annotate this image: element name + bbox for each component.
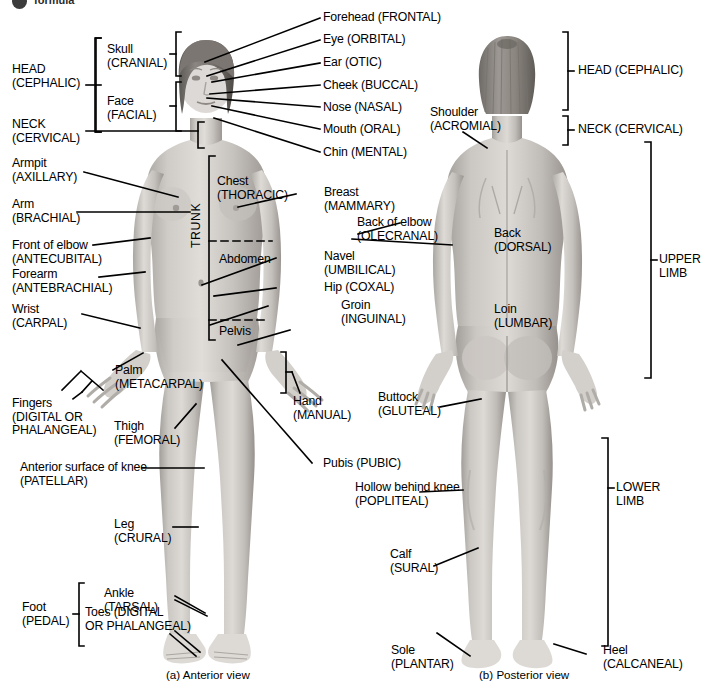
- label-pelvis: Pelvis: [219, 325, 251, 339]
- label-trunk: TRUNK: [190, 203, 204, 248]
- caption-anterior: (a) Anterior view: [166, 668, 250, 681]
- label-forehead: Forehead (FRONTAL): [323, 11, 441, 25]
- label-groin-inguinal: Groin (INGUINAL): [341, 299, 406, 326]
- label-front-of-elbow: Front of elbow (ANTECUBITAL): [12, 239, 102, 266]
- label-upper-limb: UPPER LIMB: [659, 253, 701, 280]
- label-hand-manual: Hand (MANUAL): [293, 395, 351, 422]
- label-back-of-elbow: Back of elbow (OLECRANAL): [357, 216, 438, 243]
- label-navel-umbilical: Navel (UMBILICAL): [324, 250, 395, 277]
- label-lower-limb: LOWER LIMB: [616, 481, 660, 508]
- anterior-body: [88, 40, 322, 663]
- label-forearm: Forearm (ANTEBRACHIAL): [12, 268, 112, 295]
- label-chest-thoracic: Chest (THORACIC): [217, 175, 288, 202]
- label-heel-calcaneal: Heel (CALCANEAL): [603, 644, 683, 671]
- label-chin: Chin (MENTAL): [323, 146, 407, 160]
- label-back-dorsal: Back (DORSAL): [494, 227, 552, 254]
- label-leg-crural: Leg (CRURAL): [114, 518, 172, 545]
- label-buttock-gluteal: Buttock (GLUTEAL): [378, 391, 441, 418]
- label-eye: Eye (ORBITAL): [323, 33, 406, 47]
- label-calf-sural: Calf (SURAL): [390, 548, 438, 575]
- label-post-head: HEAD (CEPHALIC): [578, 64, 683, 78]
- label-hip-coxal: Hip (COXAL): [324, 281, 394, 295]
- label-popliteal: Hollow behind knee (POPLITEAL): [355, 481, 460, 508]
- label-head-cephalic: HEAD (CEPHALIC): [12, 63, 80, 90]
- label-arm: Arm (BRACHIAL): [12, 198, 80, 225]
- label-cheek: Cheek (BUCCAL): [323, 79, 418, 93]
- label-sole-plantar: Sole (PLANTAR): [391, 644, 454, 671]
- label-breast-mammary: Breast (MAMMARY): [324, 186, 395, 213]
- label-knee-patellar: Anterior surface of knee (PATELLAR): [20, 461, 147, 488]
- label-loin-lumbar: Loin (LUMBAR): [494, 303, 552, 330]
- label-wrist: Wrist (CARPAL): [12, 303, 67, 330]
- label-skull-cranial: Skull (CRANIAL): [107, 43, 167, 70]
- label-mouth: Mouth (ORAL): [323, 123, 400, 137]
- label-pubis-pubic: Pubis (PUBIC): [323, 457, 401, 471]
- label-post-neck: NECK (CERVICAL): [578, 123, 683, 137]
- label-neck-cervical: NECK (CERVICAL): [12, 118, 80, 145]
- label-ear: Ear (OTIC): [323, 56, 382, 70]
- anatomical-regions-figure: formula: [0, 0, 716, 692]
- label-foot-pedal: Foot (PEDAL): [22, 601, 69, 628]
- label-abdomen: Abdomen: [219, 253, 271, 267]
- label-armpit: Armpit (AXILLARY): [12, 157, 77, 184]
- label-shoulder-acromial: Shoulder (ACROMIAL): [430, 106, 501, 133]
- caption-posterior: (b) Posterior view: [479, 668, 569, 681]
- label-nose: Nose (NASAL): [323, 101, 402, 115]
- label-thigh: Thigh (FEMORAL): [114, 420, 180, 447]
- label-fingers: Fingers (DIGITAL OR PHALANGEAL): [12, 397, 96, 438]
- label-toes: Toes (DIGITAL OR PHALANGEAL): [85, 606, 191, 633]
- label-palm: Palm (METACARPAL): [115, 364, 203, 391]
- label-face-facial: Face (FACIAL): [107, 95, 156, 122]
